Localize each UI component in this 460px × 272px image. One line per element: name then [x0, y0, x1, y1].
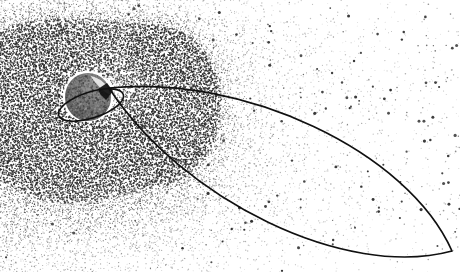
orbit-layer: [0, 0, 460, 272]
elliptical-orbit-track: [109, 86, 452, 257]
inner-orbit-ring: [55, 82, 128, 128]
perigee-marker: [98, 83, 113, 100]
magnetosphere-figure: Stippled halftone scientific illustratio…: [0, 0, 460, 272]
